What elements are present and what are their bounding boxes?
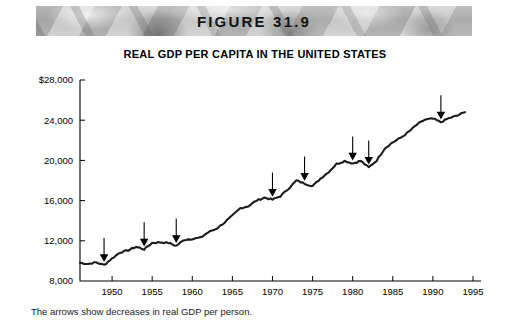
x-tick-label: 1960 [182, 286, 203, 297]
y-tick-label: 12,000 [44, 235, 73, 246]
x-axis-labels: 1950195519601965197019751980198519901995 [102, 286, 484, 297]
chart-axes [80, 80, 481, 281]
figure-label: FIGURE 31.9 [36, 6, 472, 36]
x-tick-label: 1965 [222, 286, 243, 297]
figure-caption: The arrows show decreases in real GDP pe… [31, 306, 252, 317]
y-tick-label: 24,000 [44, 115, 73, 126]
x-tick-label: 1995 [462, 286, 483, 297]
figure-banner: FIGURE 31.9 [36, 6, 472, 36]
x-tick-label: 1950 [102, 286, 123, 297]
arrow-decrease-1949 [101, 238, 108, 261]
y-tick-label: 20,000 [44, 155, 73, 166]
arrow-decrease-1974 [301, 157, 308, 180]
figure-container: FIGURE 31.9 REAL GDP PER CAPITA IN THE U… [0, 0, 510, 333]
arrow-decrease-1958 [173, 219, 180, 242]
annotation-arrows [101, 95, 444, 261]
chart-plot: $28,00024,00020,00016,00012,0008,000 195… [0, 0, 510, 333]
y-axis-labels: $28,00024,00020,00016,00012,0008,000 [39, 74, 73, 286]
x-tick-label: 1985 [382, 286, 403, 297]
arrow-decrease-1954 [141, 222, 148, 245]
x-tick-label: 1955 [142, 286, 163, 297]
arrow-decrease-1982 [365, 140, 372, 163]
y-tick-label: 16,000 [44, 195, 73, 206]
x-tick-label: 1990 [422, 286, 443, 297]
arrow-decrease-1991 [438, 95, 445, 118]
x-tick-label: 1975 [302, 286, 323, 297]
y-tick-label: $28,000 [39, 74, 73, 85]
arrow-decrease-1980 [349, 136, 356, 159]
y-tick-label: 8,000 [49, 275, 73, 286]
arrow-decrease-1970 [269, 173, 276, 196]
x-tick-label: 1970 [262, 286, 283, 297]
x-tick-label: 1980 [342, 286, 363, 297]
